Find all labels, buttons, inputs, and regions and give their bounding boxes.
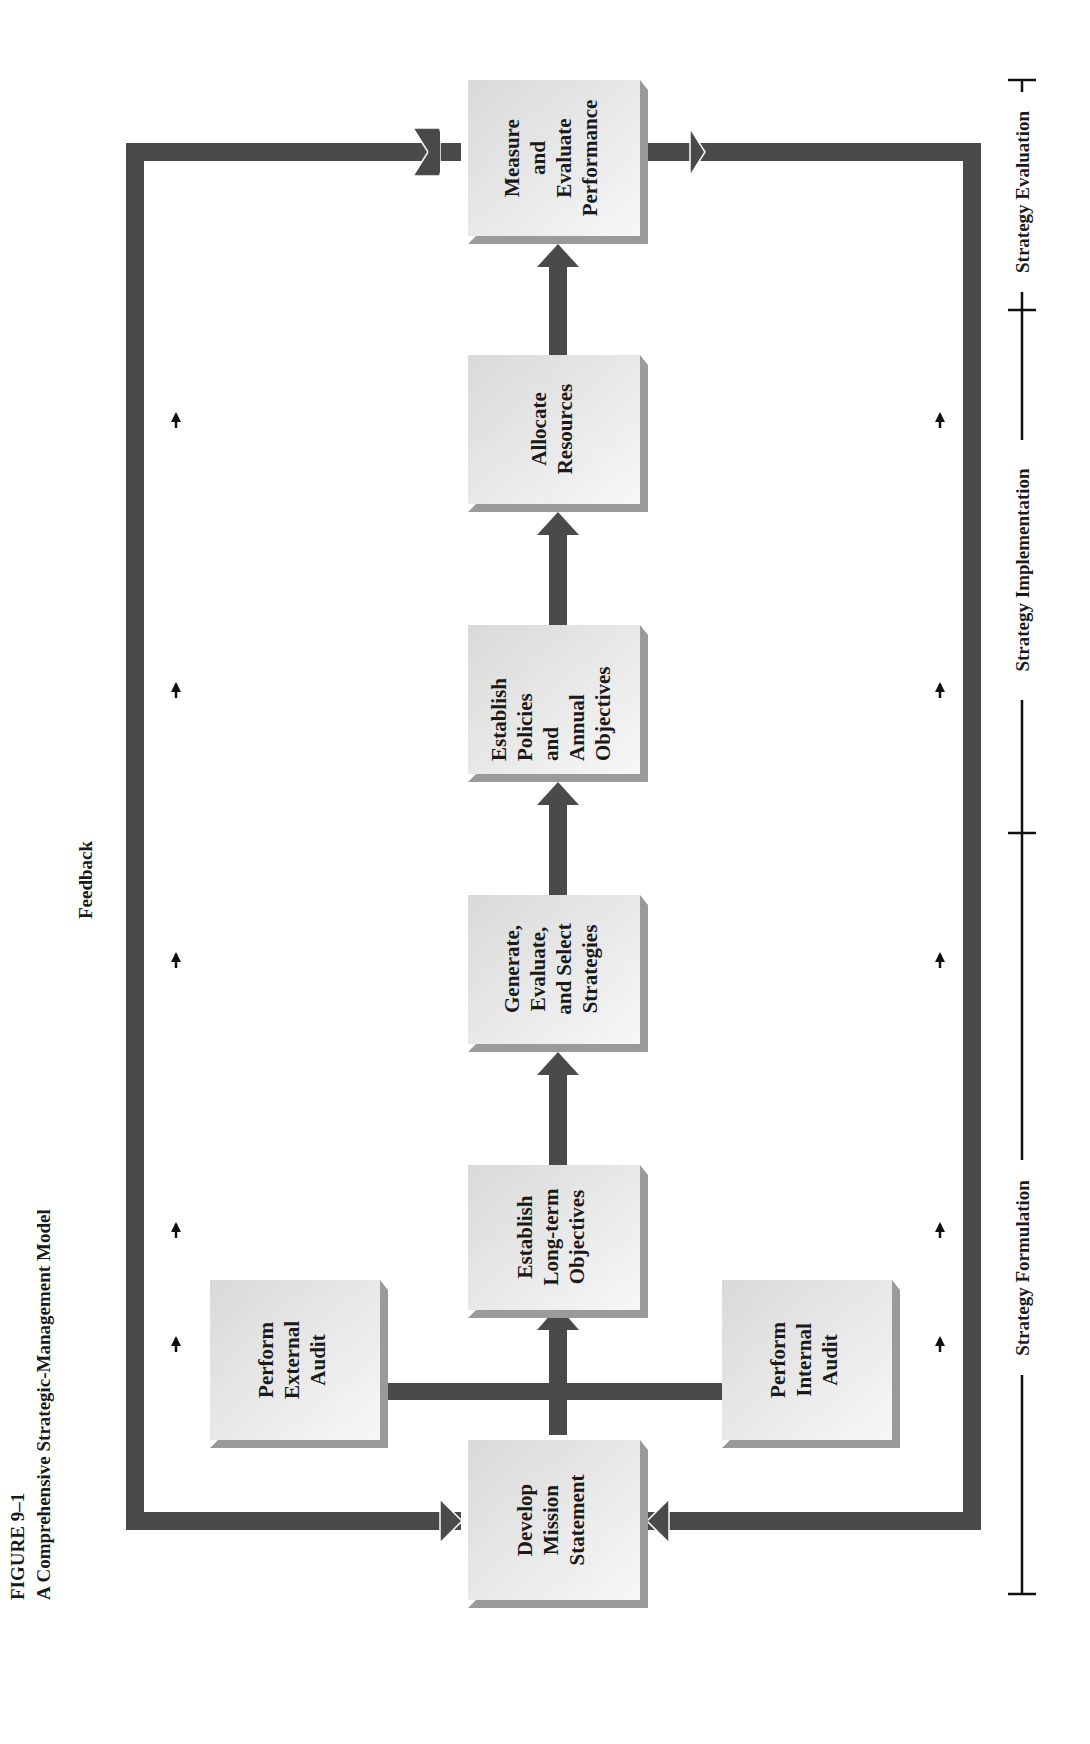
phase-strategy-implementation: Strategy Implementation bbox=[1012, 468, 1033, 672]
svg-text:Resources: Resources bbox=[553, 384, 577, 475]
svg-text:Policies: Policies bbox=[513, 693, 537, 761]
arrow-up-icon bbox=[935, 1336, 945, 1346]
svg-text:Measure: Measure bbox=[500, 119, 524, 197]
arrow-up-icon bbox=[935, 1222, 945, 1232]
svg-text:Long-term: Long-term bbox=[539, 1188, 563, 1285]
arrow-up-icon bbox=[171, 1336, 181, 1346]
box-resources: Allocate Resources bbox=[468, 355, 648, 512]
svg-text:and Select: and Select bbox=[552, 923, 576, 1015]
svg-text:Generate,: Generate, bbox=[500, 925, 524, 1013]
svg-text:Audit: Audit bbox=[818, 1334, 842, 1385]
box-mission: Develop Mission Statement bbox=[468, 1440, 648, 1608]
svg-text:Strategies: Strategies bbox=[578, 925, 602, 1014]
figure-number: FIGURE 9–1 bbox=[7, 1493, 28, 1600]
arrow-up-icon bbox=[171, 682, 181, 692]
svg-text:and: and bbox=[539, 727, 563, 761]
arrow-up-icon bbox=[935, 412, 945, 422]
arrow-right-icon bbox=[690, 128, 705, 176]
strategic-management-diagram: FIGURE 9–1 A Comprehensive Strategic-Man… bbox=[0, 0, 1090, 1744]
arrow-right-icon bbox=[440, 1499, 462, 1543]
feedback-label: Feedback bbox=[75, 841, 96, 920]
svg-text:Perform: Perform bbox=[254, 1322, 278, 1398]
input-arrows-right-heads bbox=[935, 412, 945, 1346]
arrow-up-icon bbox=[171, 952, 181, 962]
svg-text:Objectives: Objectives bbox=[565, 1190, 589, 1284]
svg-text:Establish: Establish bbox=[513, 1195, 537, 1278]
svg-text:Performance: Performance bbox=[578, 100, 602, 217]
figure-title: A Comprehensive Strategic-Management Mod… bbox=[33, 1209, 54, 1600]
box-policies: Establish Policies and Annual Objectives bbox=[468, 625, 648, 782]
svg-text:Objectives: Objectives bbox=[591, 667, 615, 761]
svg-text:External: External bbox=[280, 1321, 304, 1399]
phase-strategy-formulation: Strategy Formulation bbox=[1012, 1180, 1033, 1356]
box-strategies: Generate, Evaluate, and Select Strategie… bbox=[468, 895, 648, 1052]
arrow-left-icon bbox=[647, 1499, 669, 1543]
svg-text:and: and bbox=[526, 141, 550, 175]
figure-caption: FIGURE 9–1 A Comprehensive Strategic-Man… bbox=[7, 1209, 54, 1600]
box-external-audit: Perform External Audit bbox=[210, 1280, 388, 1448]
svg-text:Establish: Establish bbox=[487, 678, 511, 761]
phase-strategy-evaluation: Strategy Evaluation bbox=[1012, 111, 1033, 273]
svg-text:Develop: Develop bbox=[513, 1484, 537, 1556]
input-arrows-left-heads bbox=[171, 412, 181, 1346]
svg-text:Internal: Internal bbox=[792, 1323, 816, 1397]
arrow-up-icon bbox=[171, 1222, 181, 1232]
arrow-up-icon bbox=[171, 412, 181, 422]
svg-text:Allocate: Allocate bbox=[527, 392, 551, 465]
arrow-up-icon bbox=[935, 952, 945, 962]
svg-text:Mission: Mission bbox=[539, 1485, 563, 1555]
arrow-up-icon bbox=[935, 682, 945, 692]
svg-text:Statement: Statement bbox=[565, 1475, 589, 1566]
svg-text:Evaluate: Evaluate bbox=[552, 118, 576, 197]
svg-text:Perform: Perform bbox=[766, 1322, 790, 1398]
box-measure-performance: Measure and Evaluate Performance bbox=[468, 80, 648, 244]
box-internal-audit: Perform Internal Audit bbox=[722, 1280, 900, 1448]
svg-text:Evaluate,: Evaluate, bbox=[526, 927, 550, 1012]
svg-text:Audit: Audit bbox=[306, 1334, 330, 1385]
svg-text:Annual: Annual bbox=[565, 694, 589, 761]
box-long-term-objectives: Establish Long-term Objectives bbox=[468, 1165, 648, 1318]
